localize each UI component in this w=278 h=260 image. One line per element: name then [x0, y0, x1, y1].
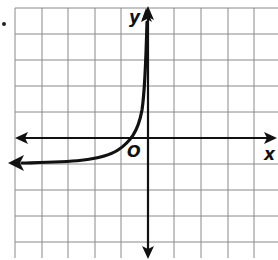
x-axis	[15, 132, 277, 144]
y-axis	[142, 6, 154, 259]
y-axis-label: y	[129, 7, 141, 27]
graph: y x O	[0, 0, 278, 260]
x-axis-label: x	[263, 144, 276, 164]
origin-label: O	[127, 142, 141, 161]
